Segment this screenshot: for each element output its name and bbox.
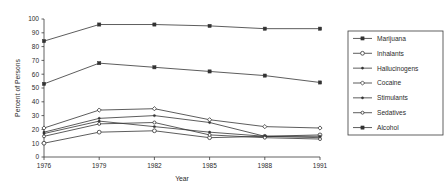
legend-item-hallucinogens[interactable]: Hallucinogens <box>353 65 419 73</box>
series-cocaine <box>42 107 322 131</box>
series-layer <box>42 23 322 145</box>
data-point-marker <box>153 121 156 124</box>
data-point-marker <box>361 67 363 69</box>
legend-item-marijuana[interactable]: Marijuana <box>353 35 406 43</box>
data-point-marker <box>263 74 266 77</box>
legend-label: Marijuana <box>377 35 406 43</box>
data-point-marker <box>318 81 321 84</box>
x-tick-label: 1979 <box>92 162 107 169</box>
data-point-marker <box>43 135 46 138</box>
data-point-marker <box>318 27 321 30</box>
legend-label: Stimulants <box>377 94 408 101</box>
y-axis: 0102030405060708090100 <box>28 15 44 160</box>
data-point-marker <box>361 126 364 129</box>
data-point-marker <box>263 125 267 129</box>
data-point-marker <box>319 138 322 141</box>
data-point-marker <box>98 117 100 119</box>
legend-item-stimulants[interactable]: Stimulants <box>353 94 408 101</box>
x-tick-label: 1976 <box>37 162 52 169</box>
data-point-marker <box>208 70 211 73</box>
series-sedatives <box>43 121 322 141</box>
data-point-marker <box>360 81 364 85</box>
data-point-marker <box>98 23 101 26</box>
legend-label: Alcohol <box>377 124 399 131</box>
series-line <box>44 25 320 42</box>
legend-item-sedatives[interactable]: Sedatives <box>353 109 407 116</box>
x-axis-title: Year <box>175 175 189 182</box>
data-point-marker <box>208 133 211 136</box>
data-point-marker <box>208 24 211 27</box>
y-tick-label: 80 <box>32 43 40 50</box>
legend-label: Inhalants <box>377 50 404 57</box>
data-point-marker <box>208 118 212 122</box>
data-point-marker <box>153 66 156 69</box>
x-tick-label: 1982 <box>147 162 162 169</box>
data-point-marker <box>153 125 155 127</box>
data-point-marker <box>263 27 266 30</box>
legend-item-inhalants[interactable]: Inhalants <box>353 50 404 57</box>
series-marijuana <box>42 62 321 86</box>
data-point-marker <box>263 136 266 139</box>
x-tick-label: 1991 <box>313 162 328 169</box>
data-point-marker <box>98 122 101 125</box>
series-line <box>44 63 320 84</box>
data-point-marker <box>319 135 321 137</box>
y-tick-label: 30 <box>32 112 40 119</box>
data-point-marker <box>361 51 365 55</box>
data-point-marker <box>318 126 322 130</box>
data-point-marker <box>208 131 210 133</box>
data-point-marker <box>361 97 363 99</box>
line-chart: 0102030405060708090100 19761979198219851… <box>0 0 447 188</box>
x-tick-label: 1988 <box>258 162 273 169</box>
legend-label: Sedatives <box>377 109 407 116</box>
y-axis-title: Percent of Persons <box>14 59 21 117</box>
legend-item-alcohol[interactable]: Alcohol <box>353 124 399 131</box>
chart-canvas: 0102030405060708090100 19761979198219851… <box>0 0 447 188</box>
x-tick-label: 1985 <box>202 162 217 169</box>
legend-label: Cocaine <box>377 79 402 86</box>
data-point-marker <box>152 107 156 111</box>
y-tick-label: 0 <box>35 153 39 160</box>
y-tick-label: 60 <box>32 71 40 78</box>
data-point-marker <box>153 23 156 26</box>
data-point-marker <box>97 130 101 134</box>
series-alcohol <box>42 23 321 43</box>
data-point-marker <box>42 82 45 85</box>
legend-item-cocaine[interactable]: Cocaine <box>353 79 402 86</box>
series-line <box>44 109 320 128</box>
y-tick-label: 70 <box>32 57 40 64</box>
y-tick-label: 40 <box>32 98 40 105</box>
data-point-marker <box>153 129 157 133</box>
data-point-marker <box>153 114 155 116</box>
chart-legend: MarijuanaInhalantsHallucinogensCocaineSt… <box>348 31 443 135</box>
data-point-marker <box>97 108 101 112</box>
data-point-marker <box>42 39 45 42</box>
data-point-marker <box>361 37 364 40</box>
data-point-marker <box>98 62 101 65</box>
y-tick-label: 20 <box>32 126 40 133</box>
y-tick-label: 50 <box>32 84 40 91</box>
y-tick-label: 90 <box>32 29 40 36</box>
data-point-marker <box>43 132 45 134</box>
data-point-marker <box>42 141 46 145</box>
y-tick-label: 10 <box>32 140 40 147</box>
y-tick-label: 100 <box>28 15 39 22</box>
data-point-marker <box>361 111 364 114</box>
legend-label: Hallucinogens <box>377 65 419 73</box>
data-point-marker <box>98 120 100 122</box>
x-axis: 197619791982198519881991 <box>37 157 328 169</box>
